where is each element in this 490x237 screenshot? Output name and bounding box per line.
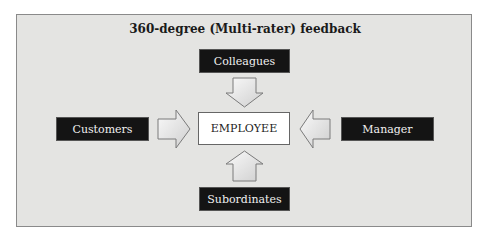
up-arrow-icon <box>0 0 490 237</box>
